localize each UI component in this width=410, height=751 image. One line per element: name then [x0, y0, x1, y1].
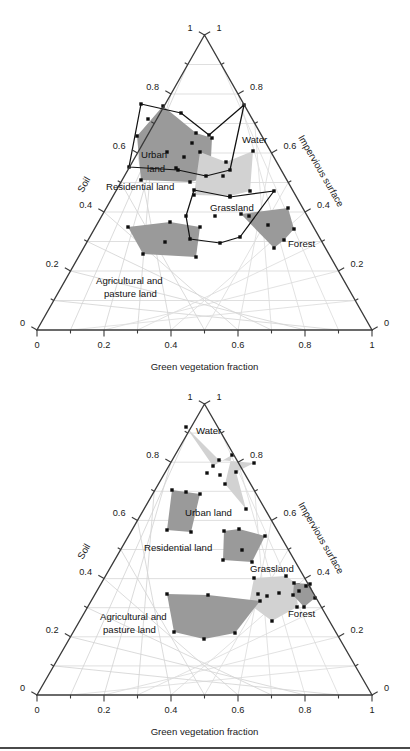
data-point: [188, 180, 191, 183]
data-point: [165, 528, 168, 531]
bottom-tick-label: 0.6: [232, 705, 245, 715]
left-axis-label: Soil: [75, 175, 93, 194]
left-tick-label: 0.6: [113, 141, 126, 151]
data-point: [282, 238, 285, 241]
data-point: [244, 507, 247, 510]
ternary-plot-bottom: 00.20.40.60.8110.80.60.40.2000.20.40.60.…: [0, 375, 410, 751]
ternary-panel-top: 00.20.40.60.8110.80.60.40.2000.20.40.60.…: [0, 0, 410, 375]
left-tick-label: 0: [20, 683, 25, 693]
data-point: [182, 155, 185, 158]
bottom-tick-label: 0.8: [299, 340, 312, 350]
right-tick-label: 0.6: [284, 141, 297, 151]
left-tick-label: 0.4: [79, 567, 92, 577]
data-point: [190, 141, 193, 144]
data-point: [240, 548, 243, 551]
data-point: [135, 134, 138, 137]
data-point: [126, 225, 129, 228]
class-label-agricultural: Agricultural and: [96, 275, 163, 286]
bottom-tick-label: 0.2: [98, 340, 111, 350]
data-point: [172, 630, 175, 633]
data-point: [218, 473, 221, 476]
left-tick-label: 0.2: [46, 625, 59, 635]
data-point: [247, 214, 250, 217]
data-point: [163, 240, 166, 243]
right-tick-label: 0.4: [317, 200, 330, 210]
data-point: [221, 174, 224, 177]
right-tick-label: 0.2: [351, 259, 364, 269]
data-point: [184, 425, 187, 428]
series-polygon: [194, 151, 253, 196]
data-point: [184, 214, 187, 217]
right-axis-label: Impervious surface: [296, 133, 346, 209]
bottom-tick-label: 0: [34, 340, 39, 350]
right-tick-label: 0.2: [351, 625, 364, 635]
data-point: [266, 223, 269, 226]
class-label-residential-land: Residential land: [144, 542, 212, 553]
left-tick-label: 1: [187, 392, 192, 402]
data-point: [297, 589, 300, 592]
class-label-grassland: Grassland: [210, 202, 254, 213]
class-label-water: Water: [196, 425, 222, 436]
data-point: [141, 252, 144, 255]
data-point: [221, 558, 224, 561]
data-point: [204, 174, 207, 177]
series-polygon: [241, 208, 294, 248]
data-point: [228, 168, 231, 171]
x-axis-label: Green vegetation fraction: [151, 361, 259, 372]
data-point: [292, 227, 295, 230]
class-label-forest: Forest: [288, 608, 316, 619]
data-point: [234, 470, 237, 473]
data-point: [263, 534, 266, 537]
data-point: [291, 593, 294, 596]
data-point: [188, 237, 191, 240]
data-point: [284, 574, 287, 577]
left-tick-label: 0.2: [46, 259, 59, 269]
class-label-urban-land-l2: land: [147, 163, 165, 174]
class-label-urban-land-l1: Urban: [141, 149, 167, 160]
data-point: [265, 594, 268, 597]
bottom-tick-label: 0.4: [165, 340, 178, 350]
bottom-tick-label: 0.4: [165, 705, 178, 715]
data-point: [184, 490, 187, 493]
grid-lines: [54, 433, 356, 695]
data-point: [217, 458, 220, 461]
series-residential-land: [192, 149, 254, 197]
right-tick-label: 0: [384, 683, 389, 693]
class-label-agricultural-l2: pasture land: [103, 624, 156, 635]
data-point: [248, 189, 251, 192]
class-label-residential-land: Residential land: [106, 181, 174, 192]
data-point: [192, 188, 195, 191]
data-point: [237, 527, 240, 530]
series-polygon: [167, 594, 260, 639]
data-point: [198, 150, 201, 153]
data-point: [194, 131, 197, 134]
grid-lines: [54, 65, 356, 331]
data-point: [202, 637, 205, 640]
data-point: [251, 149, 254, 152]
class-label-water: Water: [242, 134, 268, 145]
data-point: [238, 235, 241, 238]
data-point: [207, 133, 210, 136]
data-point: [211, 464, 214, 467]
data-point: [258, 599, 261, 602]
right-tick-label: 0.8: [250, 450, 263, 460]
bottom-tick-label: 1: [369, 705, 374, 715]
right-tick-label: 0: [384, 318, 389, 328]
data-point: [198, 225, 201, 228]
data-point: [252, 576, 255, 579]
left-tick-label: 0.8: [146, 450, 159, 460]
data-point: [213, 214, 216, 217]
data-point: [210, 136, 213, 139]
data-point: [256, 592, 259, 595]
ternary-plot-top: 00.20.40.60.8110.80.60.40.2000.20.40.60.…: [0, 0, 410, 375]
data-point: [277, 591, 280, 594]
right-tick-label: 1: [217, 392, 222, 402]
data-point: [270, 619, 273, 622]
class-label-agricultural: Agricultural and: [100, 611, 167, 622]
right-tick-label: 0.6: [284, 508, 297, 518]
data-point: [228, 195, 231, 198]
bottom-rule: [0, 747, 410, 749]
bottom-tick-label: 0: [34, 705, 39, 715]
data-point: [272, 246, 275, 249]
data-point: [304, 584, 307, 587]
